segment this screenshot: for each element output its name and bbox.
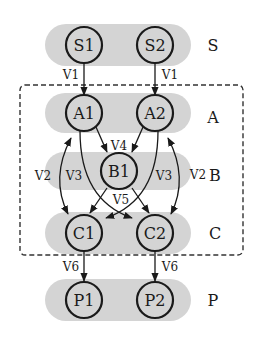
node-s2: S2 [137, 27, 173, 63]
svg-text:C1: C1 [73, 224, 95, 243]
node-b1: B1 [101, 153, 137, 189]
edge-label-v5: V5 [112, 193, 129, 207]
edge-label-v1-right: V1 [161, 68, 178, 82]
svg-text:P2: P2 [145, 291, 166, 310]
row-label-s: S [208, 36, 219, 55]
edge-label-v6-right: V6 [161, 260, 178, 274]
node-p1: P1 [66, 282, 102, 318]
row-label-b: B [209, 166, 221, 185]
edge-b1-c1 [90, 188, 107, 213]
svg-text:B1: B1 [108, 162, 130, 181]
row-label-p: P [208, 291, 219, 310]
edge-label-v1-left: V1 [62, 68, 79, 82]
node-a1: A1 [66, 95, 102, 131]
svg-text:S2: S2 [144, 36, 165, 55]
edge-label-v3-left: V3 [65, 169, 82, 183]
edge-label-v2-right: V2 [189, 168, 206, 182]
edge-label-v4: V4 [110, 139, 128, 153]
svg-text:A2: A2 [143, 104, 166, 123]
node-s1: S1 [66, 27, 102, 63]
row-label-a: A [206, 108, 219, 127]
svg-text:A1: A1 [72, 104, 95, 123]
edge-label-v2-left: V2 [34, 169, 51, 183]
svg-text:P1: P1 [74, 291, 95, 310]
svg-text:C2: C2 [144, 224, 166, 243]
edge-label-v6-left: V6 [62, 260, 79, 274]
node-p2: P2 [137, 282, 173, 318]
row-label-c: C [209, 224, 221, 243]
svg-text:S1: S1 [73, 36, 94, 55]
edge-label-v3-right: V3 [155, 169, 172, 183]
node-a2: A2 [137, 95, 173, 131]
diagram-canvas: S1 S2 A1 A2 B1 C1 C2 P1 P2 S A B C P V1 … [0, 0, 266, 341]
node-c1: C1 [66, 215, 102, 251]
node-c2: C2 [137, 215, 173, 251]
